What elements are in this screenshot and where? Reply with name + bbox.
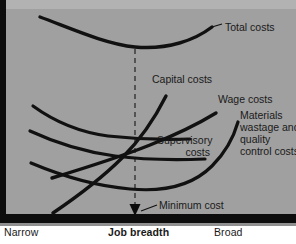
cost-curves-figure: Total costs Supervisory costs Materials …: [0, 0, 296, 244]
x-axis-label-row: Narrow Job breadth Broad: [0, 226, 296, 244]
x-axis-max-label: Broad: [214, 226, 243, 238]
axis-bottom: [0, 214, 296, 223]
label-supervisory-costs-line2: costs: [185, 146, 210, 158]
label-minimum-cost: Minimum cost: [159, 199, 224, 211]
top-band: [0, 0, 296, 9]
frame-left: [0, 0, 6, 222]
label-materials-line4: control costs: [240, 145, 296, 157]
label-materials-line1: Materials: [240, 109, 283, 121]
label-wage-costs: Wage costs: [218, 93, 272, 105]
label-materials-line3: quality: [240, 133, 271, 145]
label-materials-line2: wastage and: [239, 121, 296, 133]
label-capital-costs: Capital costs: [152, 73, 212, 85]
x-axis-min-label: Narrow: [4, 226, 38, 238]
x-axis-title: Job breadth: [108, 226, 169, 238]
label-total-costs: Total costs: [225, 21, 275, 33]
cost-curves-chart: Total costs Supervisory costs Materials …: [0, 0, 296, 244]
